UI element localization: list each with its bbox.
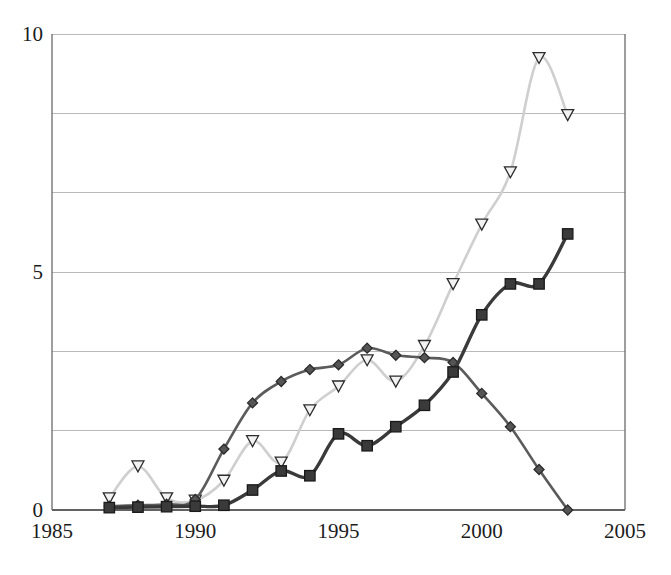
data-point-marker <box>104 502 114 512</box>
data-point-marker <box>477 310 487 320</box>
data-point-marker <box>391 422 401 432</box>
data-point-marker <box>190 501 200 511</box>
x-tick-label: 2000 <box>461 519 503 543</box>
data-point-marker <box>504 167 516 178</box>
data-point-marker <box>534 279 544 289</box>
data-point-marker <box>305 365 315 375</box>
series-line-black-square-series <box>109 234 567 508</box>
data-point-marker <box>219 500 229 510</box>
data-point-marker <box>133 502 143 512</box>
y-tick-label: 5 <box>33 260 44 284</box>
data-point-marker <box>276 466 286 476</box>
x-tick-label: 1995 <box>318 519 360 543</box>
data-point-marker <box>247 485 257 495</box>
y-axis-tick-labels: 0510 <box>22 22 43 522</box>
x-tick-label: 1985 <box>31 519 73 543</box>
data-point-marker <box>304 405 316 416</box>
data-point-marker <box>562 110 574 121</box>
data-point-marker <box>333 429 343 439</box>
data-point-marker <box>362 441 372 451</box>
data-point-marker <box>505 279 515 289</box>
chart-canvas: 0510 19851990199520002005 <box>0 0 671 575</box>
series-black-square-series <box>104 229 573 513</box>
x-axis-tick-labels: 19851990199520002005 <box>31 519 646 543</box>
x-tick-label: 1990 <box>174 519 216 543</box>
data-point-marker <box>563 229 573 239</box>
data-point-marker <box>334 360 344 370</box>
data-point-marker <box>418 341 430 352</box>
x-tick-label: 2005 <box>604 519 646 543</box>
data-point-marker <box>447 279 459 290</box>
data-point-marker <box>448 367 458 377</box>
data-point-marker <box>419 400 429 410</box>
data-point-marker <box>476 219 488 230</box>
data-point-marker <box>161 501 171 511</box>
line-chart: 0510 19851990199520002005 <box>0 0 671 575</box>
y-tick-label: 10 <box>22 22 43 46</box>
data-point-marker <box>305 471 315 481</box>
series-group <box>103 53 573 515</box>
